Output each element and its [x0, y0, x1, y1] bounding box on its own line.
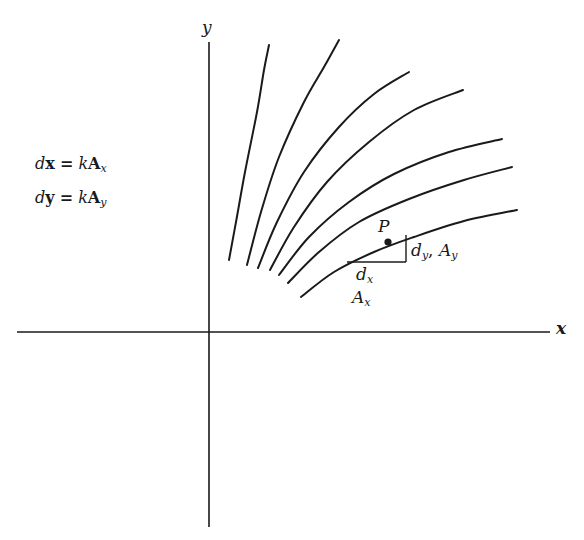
eq2-var: y — [45, 188, 54, 207]
field-diagram — [0, 0, 584, 540]
displacement-triangle — [347, 235, 406, 262]
y-axis-label: y — [202, 17, 212, 37]
eq1-sub: x — [101, 162, 107, 175]
field-line-7 — [301, 210, 517, 297]
ax-base: A — [352, 287, 364, 307]
field-line-1 — [229, 45, 269, 260]
dx-base: d — [356, 264, 367, 284]
point-p-marker — [384, 238, 391, 245]
dx-label: dx — [356, 264, 373, 286]
field-line-3 — [258, 72, 409, 268]
ay-sub: y — [451, 249, 457, 262]
dy-ay-label: dy, Ay — [411, 240, 457, 262]
eq2-d: d — [35, 188, 45, 207]
ax-sub: x — [364, 296, 370, 309]
ax-label: Ax — [352, 287, 371, 309]
x-axis-label: x — [556, 318, 566, 338]
point-p-label: P — [378, 216, 389, 236]
eq2-equals: = — [60, 188, 73, 207]
eq2-k: k — [78, 188, 88, 207]
eq1-var: x — [45, 154, 55, 173]
eq2-A: A — [88, 188, 100, 207]
ay-base: A — [439, 240, 451, 260]
dx-sub: x — [367, 273, 373, 286]
eq2-sub: y — [100, 196, 106, 209]
eq1-d: d — [35, 154, 45, 173]
dy-sep: , — [428, 240, 433, 260]
eq1-A: A — [88, 154, 100, 173]
field-lines — [229, 40, 517, 297]
dy-base: d — [411, 240, 422, 260]
equation-dx: dx = kAx — [35, 154, 107, 175]
eq1-equals: = — [60, 154, 73, 173]
equation-dy: dy = kAy — [35, 188, 106, 209]
eq1-k: k — [78, 154, 88, 173]
field-line-2 — [247, 40, 339, 265]
